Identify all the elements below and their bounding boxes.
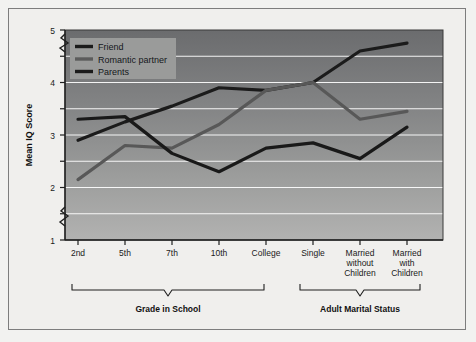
x-axis-tick-labels: 2nd 5th 7th 10th College Single Married … [71, 248, 423, 278]
x-tick-label-7-line3: Children [391, 268, 423, 278]
y-axis-title: Mean IQ Score [24, 104, 34, 167]
y-tick-label-2: 2 [50, 183, 55, 193]
x-axis-ticks [78, 240, 407, 245]
x-tick-label-6-line2: without [346, 258, 375, 268]
x-tick-label-6-line3: Children [344, 268, 376, 278]
x-tick-label-4: College [252, 248, 281, 258]
group-bracket-school [72, 284, 264, 296]
legend-label-friend: Friend [98, 42, 124, 52]
x-tick-label-5: Single [301, 248, 325, 258]
group-label-school: Grade in School [135, 304, 200, 314]
legend-label-parents: Parents [98, 67, 130, 77]
x-tick-label-6-line1: Married [346, 248, 375, 258]
chart-legend: Friend Romantic partner Parents [70, 38, 176, 79]
y-tick-label-3: 3 [50, 131, 55, 141]
x-tick-label-1: 5th [119, 248, 131, 258]
x-tick-label-7-line2: with [398, 258, 414, 268]
x-tick-label-2: 7th [166, 248, 178, 258]
legend-label-romantic-partner: Romantic partner [98, 55, 167, 65]
group-label-marital: Adult Marital Status [320, 304, 400, 314]
line-chart: 5 4 3 2 1 Mean IQ Score 2nd 5th 7th 10th… [0, 0, 476, 342]
figure-container: 5 4 3 2 1 Mean IQ Score 2nd 5th 7th 10th… [0, 0, 476, 342]
group-bracket-marital [300, 284, 420, 296]
x-tick-label-3: 10th [211, 248, 228, 258]
y-tick-label-5: 5 [50, 26, 55, 36]
x-tick-label-7-line1: Married [393, 248, 422, 258]
y-tick-label-1: 1 [50, 236, 55, 246]
y-tick-label-4: 4 [50, 78, 55, 88]
x-tick-label-0: 2nd [71, 248, 85, 258]
